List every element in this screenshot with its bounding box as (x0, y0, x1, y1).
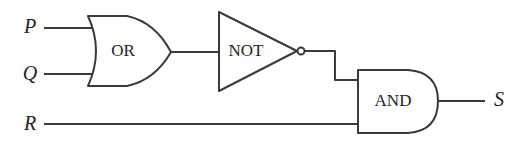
and-gate: AND (358, 70, 438, 133)
not-gate-label: NOT (229, 41, 265, 60)
logic-circuit-diagram: P Q R OR NOT AND S (0, 0, 526, 147)
wire-not-to-and (305, 51, 358, 80)
and-gate-label: AND (375, 91, 412, 110)
input-label-r: R (23, 112, 36, 134)
not-bubble-icon (298, 48, 305, 55)
or-gate-label: OR (111, 41, 135, 60)
output-label-s: S (494, 88, 504, 110)
not-gate: NOT (219, 12, 305, 91)
input-label-q: Q (23, 62, 38, 84)
input-label-p: P (23, 15, 36, 37)
or-gate: OR (88, 16, 171, 86)
